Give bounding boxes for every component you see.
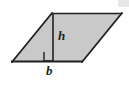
parallelogram-diagram-svg: h b bbox=[0, 0, 129, 85]
geometry-figure-parallelogram: h b bbox=[0, 0, 129, 85]
height-label: h bbox=[58, 28, 65, 43]
page-edge-shading bbox=[118, 0, 129, 7]
base-label: b bbox=[46, 63, 53, 78]
